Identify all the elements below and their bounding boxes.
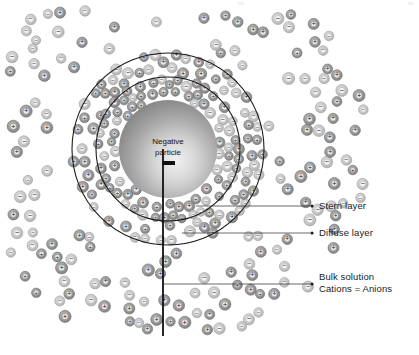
cation-symbol: +: [91, 125, 95, 133]
cation-symbol: +: [146, 325, 150, 332]
anion-ion: −: [280, 278, 290, 288]
cation-ion: +: [8, 209, 19, 220]
cation-ion: +: [302, 124, 313, 135]
cation-symbol: +: [326, 65, 330, 72]
cation-ion: +: [54, 7, 65, 18]
cation-ion: +: [328, 242, 339, 253]
anion-symbol: −: [114, 147, 118, 154]
cation-ion: +: [77, 181, 88, 192]
anion-symbol: −: [34, 99, 38, 106]
cation-symbol: +: [224, 12, 228, 18]
anion-symbol: −: [10, 52, 14, 61]
cation-symbol: +: [56, 253, 60, 260]
anion-ion: −: [122, 68, 133, 79]
cation-ion: +: [74, 230, 85, 241]
cation-ion: +: [310, 37, 321, 48]
anion-ion: −: [244, 259, 255, 270]
anion-ion: −: [210, 39, 221, 50]
anion-ion: −: [357, 178, 368, 189]
cation-ion: +: [282, 184, 293, 195]
anion-symbol: −: [256, 233, 260, 239]
cation-symbol: +: [103, 89, 107, 96]
anion-symbol: −: [18, 192, 22, 201]
anion-ion: −: [52, 26, 64, 38]
anion-symbol: −: [327, 33, 331, 39]
anion-symbol: −: [22, 138, 26, 146]
cation-ion: +: [110, 87, 120, 97]
cation-ion: +: [32, 288, 41, 297]
anion-ion: −: [134, 318, 144, 328]
cation-symbol: +: [202, 100, 206, 107]
anion-symbol: −: [279, 176, 283, 182]
anion-symbol: −: [87, 234, 91, 240]
anion-symbol: −: [126, 69, 130, 76]
cation-symbol: +: [115, 189, 119, 196]
anion-symbol: −: [208, 109, 212, 116]
anion-symbol: −: [184, 83, 188, 90]
anion-symbol: −: [9, 249, 13, 255]
anion-ion: −: [283, 72, 295, 84]
cation-ion: +: [169, 211, 178, 220]
cation-ion: +: [248, 186, 258, 196]
cation-symbol: +: [304, 198, 308, 205]
anion-symbol: −: [32, 60, 36, 67]
anion-ion: −: [21, 26, 31, 36]
anion-ion: −: [235, 206, 244, 215]
anion-ion: −: [6, 248, 15, 257]
anion-ion: −: [264, 121, 274, 131]
anion-ion: −: [167, 235, 177, 245]
anion-ion: −: [124, 290, 134, 300]
particle-caption-line2: particle: [155, 148, 181, 157]
cation-symbol: +: [203, 223, 207, 230]
cation-symbol: +: [213, 219, 217, 226]
cation-ion: +: [56, 262, 68, 274]
cation-symbol: +: [58, 9, 62, 16]
anion-ion: −: [11, 227, 23, 239]
anion-symbol: −: [215, 166, 219, 173]
anion-symbol: −: [222, 87, 225, 93]
anion-ion: −: [272, 245, 281, 254]
cation-symbol: +: [208, 209, 212, 215]
cation-ion: +: [85, 242, 95, 252]
anion-ion: −: [205, 108, 216, 119]
cation-symbol: +: [89, 244, 93, 250]
anion-symbol: −: [361, 180, 365, 187]
cation-ion: +: [83, 170, 94, 181]
cation-symbol: +: [168, 81, 171, 87]
cation-symbol: +: [162, 89, 166, 95]
cation-ion: +: [269, 288, 280, 299]
anion-symbol: −: [153, 51, 157, 59]
cation-ion: +: [199, 13, 209, 23]
anion-symbol: −: [212, 288, 216, 297]
cation-symbol: +: [214, 76, 217, 82]
anion-ion: −: [190, 288, 200, 298]
anion-symbol: −: [15, 228, 19, 237]
cation-symbol: +: [169, 200, 172, 206]
cation-symbol: +: [63, 312, 68, 321]
anion-ion: −: [215, 210, 225, 220]
anion-symbol: −: [62, 277, 66, 284]
cation-symbol: +: [236, 18, 240, 25]
cation-symbol: +: [249, 286, 253, 293]
cation-ion: +: [239, 190, 249, 200]
cation-ion: +: [59, 310, 71, 322]
anion-symbol: −: [31, 241, 35, 248]
anion-ion: −: [215, 124, 224, 133]
anion-ion: −: [313, 125, 325, 137]
cation-ion: +: [325, 146, 336, 157]
cation-ion: +: [47, 239, 58, 250]
cation-ion: +: [245, 284, 256, 295]
cation-ion: +: [205, 309, 215, 319]
anion-symbol: −: [193, 289, 197, 296]
anion-ion: −: [43, 9, 52, 18]
cation-ion: +: [36, 249, 46, 259]
cation-ion: +: [159, 87, 168, 96]
cation-symbol: +: [100, 81, 104, 87]
anion-ion: −: [240, 108, 249, 117]
cation-ion: +: [142, 264, 154, 276]
cation-symbol: +: [289, 11, 293, 17]
cation-symbol: +: [72, 63, 76, 70]
anion-ion: −: [59, 276, 70, 287]
anion-ion: −: [66, 254, 77, 265]
anion-ion: −: [199, 273, 210, 284]
